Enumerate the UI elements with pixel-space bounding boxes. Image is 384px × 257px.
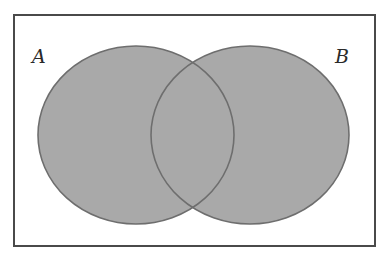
venn-diagram <box>0 0 384 257</box>
set-a-label: A <box>32 47 46 66</box>
set-b-fill <box>151 46 349 224</box>
set-b-label: B <box>335 47 349 66</box>
